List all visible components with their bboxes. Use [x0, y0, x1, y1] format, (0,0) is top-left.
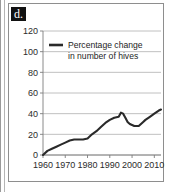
- y-tick-label: 40: [28, 109, 38, 119]
- x-tick-label: 2010: [144, 160, 164, 170]
- y-tick-label: 60: [28, 88, 38, 98]
- line-chart: 020406080100120 196019701980199020002010…: [9, 4, 165, 183]
- y-tick-label: 0: [33, 150, 38, 160]
- x-tick-label: 1970: [55, 160, 75, 170]
- x-axis-ticks: 196019701980199020002010: [33, 155, 164, 170]
- chart-panel: d. 020406080100120 196019701980199020002…: [8, 3, 164, 182]
- data-series: [43, 110, 161, 155]
- figure-root: d. 020406080100120 196019701980199020002…: [0, 0, 170, 192]
- y-tick-label: 120: [23, 26, 38, 36]
- chart-legend: Percentage change in number of hives: [49, 40, 143, 61]
- legend-label-line-1: Percentage change: [68, 40, 143, 50]
- x-tick-label: 1980: [78, 160, 98, 170]
- x-tick-label: 2000: [122, 160, 142, 170]
- plot-area-wrapper: 020406080100120 196019701980199020002010…: [9, 4, 165, 183]
- x-tick-label: 1990: [100, 160, 120, 170]
- x-tick-label: 1960: [33, 160, 53, 170]
- y-tick-label: 80: [28, 68, 38, 78]
- series-line: [43, 110, 161, 155]
- legend-label-line-2: in number of hives: [68, 51, 138, 61]
- column-rule-outer: [0, 0, 1, 192]
- column-rule-inner: [4, 0, 5, 192]
- y-tick-label: 20: [28, 130, 38, 140]
- y-tick-label: 100: [23, 47, 38, 57]
- y-axis-ticks: 020406080100120: [23, 26, 43, 160]
